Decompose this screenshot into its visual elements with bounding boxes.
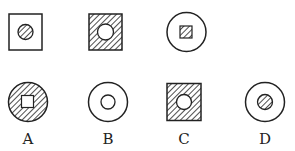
option-d-label[interactable]: D [255, 130, 275, 148]
option-b-label[interactable]: B [98, 130, 118, 148]
option-a-figure[interactable] [9, 83, 48, 122]
option-b-figure[interactable] [89, 83, 128, 122]
option-a-label[interactable]: A [18, 130, 38, 148]
option-c-figure[interactable] [167, 84, 201, 121]
figure-canvas [0, 0, 295, 151]
question-figure-2 [89, 14, 122, 50]
question-figure-3 [167, 13, 206, 52]
option-d-figure[interactable] [246, 83, 285, 122]
question-figure-1 [9, 14, 42, 50]
option-c-label[interactable]: C [174, 130, 194, 148]
